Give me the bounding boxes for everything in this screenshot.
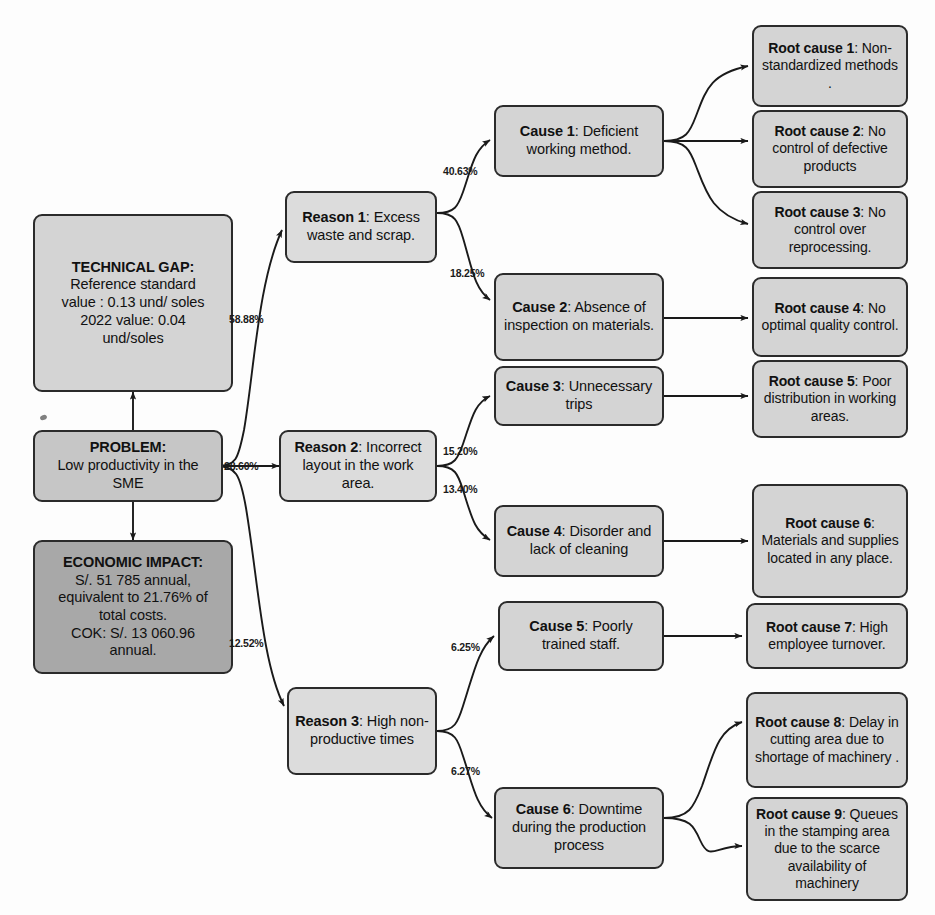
root-cause-6-body: Materials and supplies located in any pl… [761,532,898,565]
reason-2-label: Reason 2 [294,439,358,455]
problem-line2: SME [112,475,143,491]
root-cause-1-label: Root cause 1 [768,40,854,56]
root-cause-6-label: Root cause 6 [785,515,871,531]
reason-3-colon: : [359,713,367,729]
reason-1-colon: : [366,209,374,225]
edge-label-cause-1-weight: 40.63% [443,165,477,177]
cause-2-text: Cause 2: Absence of inspection on materi… [502,299,656,334]
economic-impact-line4: COK: S/. 13 060.96 [71,625,195,641]
edge-label-cause-4-weight: 13.40% [443,483,477,495]
cause-6-colon: : [571,801,579,817]
root-cause-4-label: Root cause 4 [774,300,860,316]
node-economic-impact[interactable]: ECONOMIC IMPACT: S/. 51 785 annual, equi… [33,540,233,674]
edge-label-reason-2-weight: 28.60% [224,460,258,472]
root-cause-9-colon: : [842,806,850,822]
node-root-cause-3[interactable]: Root cause 3: No control over reprocessi… [752,191,908,269]
node-cause-3[interactable]: Cause 3: Unnecessary trips [494,366,664,426]
node-reason-2[interactable]: Reason 2: Incorrect layout in the work a… [279,430,437,502]
node-cause-2[interactable]: Cause 2: Absence of inspection on materi… [494,273,664,361]
node-problem[interactable]: PROBLEM: Low productivity in the SME [33,430,223,502]
edge-label-cause-5-weight: 6.25% [451,641,480,653]
cause-4-text: Cause 4: Disorder and lack of cleaning [502,523,656,558]
technical-gap-text: TECHNICAL GAP: Reference standard value … [41,259,225,347]
reason-1-text: Reason 1: Excess waste and scrap. [293,209,429,244]
root-cause-9-label: Root cause 9 [756,806,842,822]
reason-2-text: Reason 2: Incorrect layout in the work a… [287,439,429,492]
node-root-cause-2[interactable]: Root cause 2: No control of defective pr… [752,110,908,188]
edge-label-cause-3-weight: 15.20% [443,445,477,457]
edge-cause6-to-root8 [664,722,742,818]
edge-label-cause-2-weight: 18.25% [450,267,484,279]
root-cause-3-text: Root cause 3: No control over reprocessi… [760,204,900,255]
root-cause-7-text: Root cause 7: High employee turnover. [754,619,900,653]
edge-label-reason-3-weight: 12.52% [229,637,263,649]
cause-4-label: Cause 4 [507,523,562,539]
edge-cause1-to-root3 [664,141,748,224]
root-cause-8-text: Root cause 8: Delay in cutting area due … [754,714,900,765]
edge-cause1-to-root1 [664,66,748,141]
node-technical-gap[interactable]: TECHNICAL GAP: Reference standard value … [33,214,233,392]
root-cause-6-colon: : [871,515,875,531]
problem-text: PROBLEM: Low productivity in the SME [41,439,215,492]
root-cause-4-colon: : [860,300,868,316]
technical-gap-line3: 2022 value: 0.04 [80,312,186,328]
cause-1-label: Cause 1 [520,123,575,139]
economic-impact-line5: annual. [110,642,157,658]
root-cause-5-label: Root cause 5 [769,373,855,389]
node-root-cause-8[interactable]: Root cause 8: Delay in cutting area due … [746,692,908,788]
cause-3-body: Unnecessary trips [566,378,653,412]
cause-3-text: Cause 3: Unnecessary trips [502,378,656,413]
problem-tree-diagram: TECHNICAL GAP: Reference standard value … [0,0,935,915]
problem-heading: PROBLEM: [90,439,167,455]
root-cause-2-label: Root cause 2 [774,123,860,139]
edge-reason1-to-cause2 [437,213,490,300]
node-cause-4[interactable]: Cause 4: Disorder and lack of cleaning [494,505,664,577]
problem-line1: Low productivity in the [57,457,198,473]
node-reason-3[interactable]: Reason 3: High non-productive times [287,687,437,775]
economic-impact-line1: S/. 51 785 annual, [75,572,191,588]
cause-6-label: Cause 6 [516,801,571,817]
edge-label-cause-6-weight: 6.27% [451,765,480,777]
node-cause-1[interactable]: Cause 1: Deficient working method. [494,105,664,177]
node-root-cause-4[interactable]: Root cause 4: No optimal quality control… [752,277,908,357]
reason-3-label: Reason 3 [295,713,359,729]
technical-gap-line1: Reference standard [70,276,196,292]
reason-2-colon: : [358,439,366,455]
root-cause-3-colon: : [860,204,868,220]
root-cause-3-label: Root cause 3 [774,204,860,220]
node-reason-1[interactable]: Reason 1: Excess waste and scrap. [285,191,437,263]
root-cause-8-label: Root cause 8 [755,714,841,730]
root-cause-9-text: Root cause 9: Queues in the stamping are… [754,806,900,891]
scan-artifact-speck [39,414,47,421]
edge-reason2-to-cause4 [437,466,490,540]
economic-impact-line2: equivalent to 21.76% of [58,589,207,605]
root-cause-1-colon: : [854,40,862,56]
edge-label-reason-1-weight: 58.88% [229,313,263,325]
technical-gap-heading: TECHNICAL GAP: [72,259,194,275]
node-root-cause-9[interactable]: Root cause 9: Queues in the stamping are… [746,797,908,901]
root-cause-6-text: Root cause 6: Materials and supplies loc… [760,515,900,566]
root-cause-2-text: Root cause 2: No control of defective pr… [760,123,900,174]
root-cause-2-colon: : [860,123,868,139]
node-root-cause-6[interactable]: Root cause 6: Materials and supplies loc… [752,484,908,598]
root-cause-8-colon: : [841,714,849,730]
technical-gap-line4: und/soles [102,330,163,346]
edge-cause6-to-root9 [664,818,742,852]
node-cause-5[interactable]: Cause 5: Poorly trained staff. [498,601,664,671]
cause-5-text: Cause 5: Poorly trained staff. [506,618,656,653]
reason-1-label: Reason 1 [302,209,366,225]
root-cause-4-text: Root cause 4: No optimal quality control… [760,300,900,334]
node-root-cause-7[interactable]: Root cause 7: High employee turnover. [746,603,908,669]
cause-6-text: Cause 6: Downtime during the production … [502,801,656,854]
economic-impact-text: ECONOMIC IMPACT: S/. 51 785 annual, equi… [41,554,225,660]
cause-3-colon: : [561,378,569,394]
node-root-cause-1[interactable]: Root cause 1: Non-standardized methods . [752,25,908,107]
node-cause-6[interactable]: Cause 6: Downtime during the production … [494,787,664,869]
node-root-cause-5[interactable]: Root cause 5: Poor distribution in worki… [752,360,908,438]
root-cause-5-text: Root cause 5: Poor distribution in worki… [760,373,900,424]
cause-5-label: Cause 5 [529,618,584,634]
economic-impact-heading: ECONOMIC IMPACT: [63,554,203,570]
cause-1-colon: : [575,123,583,139]
technical-gap-line2: value : 0.13 und/ soles [62,294,205,310]
root-cause-1-text: Root cause 1: Non-standardized methods . [760,40,900,91]
